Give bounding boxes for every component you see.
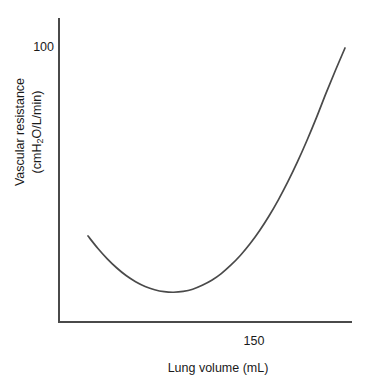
chart-plot-area xyxy=(0,0,370,389)
resistance-curve xyxy=(88,48,345,292)
chart-figure: 100 150 Vascular resistance (cmH2O/L/min… xyxy=(0,0,370,389)
